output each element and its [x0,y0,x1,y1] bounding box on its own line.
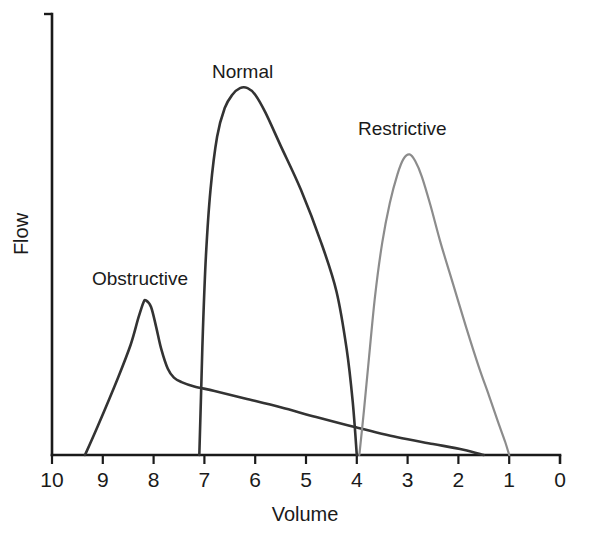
curve-annotations: ObstructiveNormalRestrictive [92,61,447,289]
x-axis-tick-labels: 109876543210 [40,468,566,491]
x-axis-ticks [52,455,560,464]
curve-normal [199,87,356,455]
curve-obstructive [85,300,484,455]
x-axis-tick-label: 9 [97,468,109,491]
curve-restrictive [359,154,509,455]
curve-label-restrictive: Restrictive [358,118,447,139]
x-axis-tick-label: 6 [249,468,261,491]
x-axis-tick-label: 7 [199,468,211,491]
flow-volume-chart: 109876543210 Volume Flow ObstructiveNorm… [0,0,590,540]
flow-volume-loop-figure: 109876543210 Volume Flow ObstructiveNorm… [0,0,590,540]
x-axis-tick-label: 5 [300,468,312,491]
curve-label-normal: Normal [212,61,273,82]
x-axis-tick-label: 8 [148,468,160,491]
x-axis-tick-label: 1 [503,468,515,491]
x-axis-tick-label: 3 [402,468,414,491]
curve-label-obstructive: Obstructive [92,268,188,289]
x-axis-tick-label: 2 [453,468,465,491]
x-axis-tick-label: 0 [554,468,566,491]
x-axis-tick-label: 4 [351,468,363,491]
x-axis-title: Volume [272,503,339,525]
x-axis-tick-label: 10 [40,468,63,491]
y-axis-title: Flow [10,212,32,255]
